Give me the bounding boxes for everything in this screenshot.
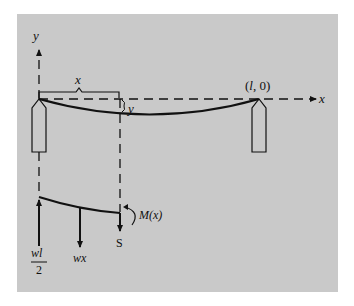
x-axis-label: x bbox=[318, 91, 325, 106]
beam-diagram: y x x y (l, 0) wl 2 wx S M(x) bbox=[0, 0, 354, 306]
reaction-denominator: 2 bbox=[36, 263, 42, 277]
moment-arrowhead-icon bbox=[123, 204, 128, 210]
left-support bbox=[32, 99, 46, 152]
deflected-beam bbox=[39, 99, 259, 115]
reaction-numerator: wl bbox=[31, 246, 43, 260]
right-support bbox=[252, 99, 266, 152]
end-point-label: (l, 0) bbox=[245, 78, 270, 93]
span-brace bbox=[39, 88, 119, 98]
moment-arc bbox=[125, 207, 135, 225]
load-label: wx bbox=[73, 251, 87, 265]
span-label: x bbox=[74, 72, 81, 87]
deflection-brace bbox=[122, 100, 125, 112]
shear-label: S bbox=[116, 236, 123, 250]
moment-label: M(x) bbox=[138, 208, 162, 222]
y-axis-label: y bbox=[31, 28, 39, 43]
